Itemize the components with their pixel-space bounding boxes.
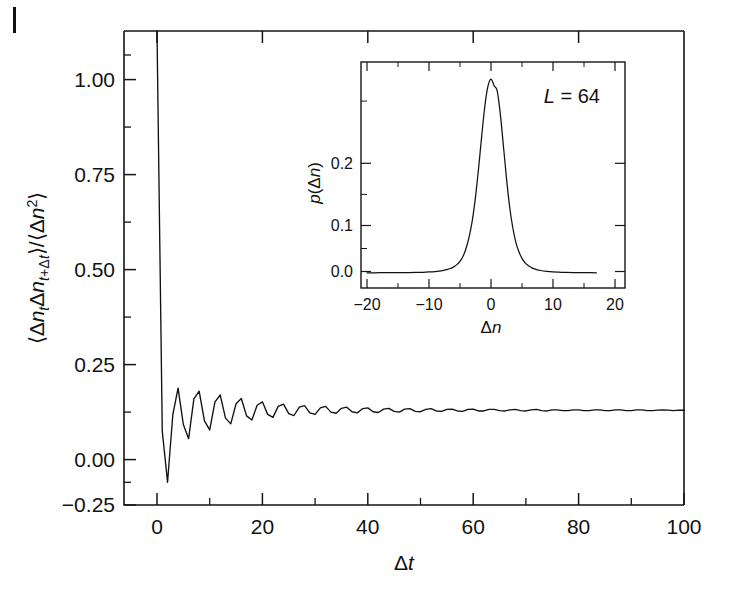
y-ticklabel-0.25: 0.25: [74, 353, 115, 376]
x-ticklabel-40: 40: [356, 515, 379, 538]
main-x-ticklabels: 0 20 40 60 80 100: [151, 515, 701, 538]
inset-x-ticklabel-neg10: −10: [415, 296, 442, 313]
svg-text:p(Δn): p(Δn): [305, 162, 324, 205]
x-ticklabel-60: 60: [462, 515, 485, 538]
y-ticklabel-neg0.25: −0.25: [62, 493, 115, 516]
chart-canvas: 1.00 0.75 0.50 0.25 0.00 −0.25 0 20 40 6…: [0, 0, 732, 594]
svg-text:⟨ΔntΔnt+Δt⟩/⟨Δn2⟩: ⟨ΔntΔnt+Δt⟩/⟨Δn2⟩: [24, 192, 52, 345]
main-y-ticks: [124, 55, 136, 505]
x-ticklabel-20: 20: [251, 515, 274, 538]
inset-x-ticklabel-20: 20: [606, 296, 624, 313]
main-y-ticklabels: 1.00 0.75 0.50 0.25 0.00 −0.25: [62, 68, 115, 516]
main-yaxis-label: ⟨ΔntΔnt+Δt⟩/⟨Δn2⟩: [24, 192, 52, 345]
inset-y-ticklabel-0.2: 0.2: [331, 155, 353, 172]
main-xaxis-label-var: t: [408, 551, 415, 574]
inset-yaxis-label: p(Δn): [305, 162, 324, 205]
inset-y-ticklabels: 0.2 0.1 0.0: [331, 155, 353, 280]
inset-xaxis-label: Δn: [481, 318, 502, 337]
figure-root: 1.00 0.75 0.50 0.25 0.00 −0.25 0 20 40 6…: [0, 0, 732, 594]
inset-annotation-symbol: L: [544, 85, 555, 107]
y-ticklabel-0.00: 0.00: [74, 448, 115, 471]
inset-x-ticklabel-neg20: −20: [353, 296, 380, 313]
x-ticklabel-100: 100: [666, 515, 701, 538]
inset-y-ticklabel-0.1: 0.1: [331, 217, 353, 234]
inset-x-ticklabel-10: 10: [544, 296, 562, 313]
inset-x-ticklabels: −20 −10 0 10 20: [353, 296, 624, 313]
y-ticklabel-0.75: 0.75: [74, 163, 115, 186]
inset-annotation-system-size: L = 64: [544, 85, 600, 107]
inset-x-ticklabel-0: 0: [487, 296, 496, 313]
main-xaxis-label: Δt: [394, 551, 415, 574]
y-ticklabel-1.00: 1.00: [74, 68, 115, 91]
y-ticklabel-0.50: 0.50: [74, 258, 115, 281]
x-ticklabel-80: 80: [567, 515, 590, 538]
x-ticklabel-0: 0: [151, 515, 163, 538]
inset-y-ticklabel-0.0: 0.0: [331, 263, 353, 280]
